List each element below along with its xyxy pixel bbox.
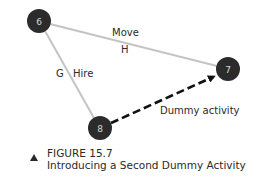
- node-6: 6: [27, 9, 51, 33]
- edge-label-g: G: [56, 69, 64, 79]
- figure-title: Introducing a Second Dummy Activity: [47, 160, 246, 171]
- edge-label-dummy-activity: Dummy activity: [160, 106, 239, 116]
- node-7: 7: [216, 57, 240, 81]
- node-8-label: 8: [97, 124, 103, 134]
- figure-number: FIGURE 15.7: [47, 148, 113, 159]
- edge-label-move: Move: [112, 28, 139, 38]
- node-8: 8: [88, 116, 112, 140]
- edge-label-h: H: [121, 45, 129, 55]
- edge-label-hire: Hire: [73, 69, 93, 79]
- edge-8-7-dummy: [111, 77, 213, 123]
- node-7-label: 7: [225, 65, 231, 75]
- node-6-label: 6: [36, 17, 42, 27]
- triangle-icon: [30, 154, 38, 161]
